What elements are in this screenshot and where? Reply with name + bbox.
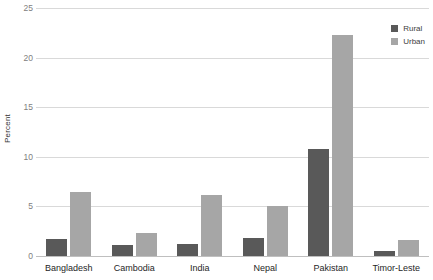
bar-timor-leste-rural	[374, 251, 395, 256]
bar-groups	[36, 8, 429, 256]
bar-group	[233, 8, 299, 256]
bar-group	[102, 8, 168, 256]
bar-pakistan-rural	[308, 149, 329, 256]
y-axis-tick-label: 15	[3, 102, 33, 112]
bar-pakistan-urban	[332, 35, 353, 256]
axis-baseline	[36, 256, 429, 257]
y-axis-tick-label: 0	[3, 251, 33, 261]
x-axis-label: Pakistan	[298, 259, 364, 279]
x-axis-label: Cambodia	[102, 259, 168, 279]
bar-group	[298, 8, 364, 256]
chart-legend: RuralUrban	[391, 24, 425, 46]
y-axis-tick-label: 25	[3, 3, 33, 13]
x-axis-label: Bangladesh	[36, 259, 102, 279]
bar-bangladesh-urban	[70, 192, 91, 256]
y-axis-tick-labels: 0510152025	[0, 8, 33, 256]
legend-item-urban[interactable]: Urban	[391, 37, 425, 46]
bar-india-urban	[201, 195, 222, 257]
bar-india-rural	[177, 244, 198, 256]
x-axis-labels: BangladeshCambodiaIndiaNepalPakistanTimo…	[36, 259, 429, 279]
y-axis-tick-label: 5	[3, 201, 33, 211]
x-axis-label: Timor-Leste	[364, 259, 430, 279]
legend-swatch-icon	[391, 25, 398, 32]
x-axis-label: Nepal	[233, 259, 299, 279]
legend-label: Urban	[403, 37, 425, 46]
y-axis-tick-label: 20	[3, 53, 33, 63]
y-axis-tick-label: 10	[3, 152, 33, 162]
bar-nepal-urban	[267, 206, 288, 256]
bar-bangladesh-rural	[46, 239, 67, 256]
bar-cambodia-rural	[112, 245, 133, 256]
bar-timor-leste-urban	[398, 240, 419, 256]
plot-area	[36, 8, 429, 256]
bar-cambodia-urban	[136, 233, 157, 256]
bar-nepal-rural	[243, 238, 264, 256]
legend-item-rural[interactable]: Rural	[391, 24, 425, 33]
legend-label: Rural	[403, 24, 422, 33]
legend-swatch-icon	[391, 38, 398, 45]
x-axis-label: India	[167, 259, 233, 279]
bar-chart: Percent 0510152025 BangladeshCambodiaInd…	[0, 0, 433, 280]
bar-group	[36, 8, 102, 256]
bar-group	[167, 8, 233, 256]
